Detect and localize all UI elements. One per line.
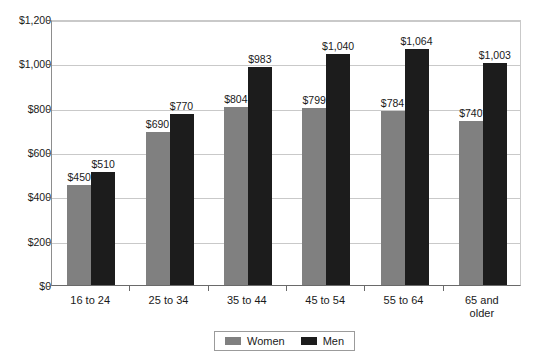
bar-men[interactable]: [326, 54, 350, 285]
bar-men[interactable]: [170, 114, 194, 285]
legend-swatch-icon: [225, 337, 241, 345]
x-axis-tick-mark: [364, 286, 365, 291]
bar-women[interactable]: [459, 121, 483, 285]
bar-women[interactable]: [302, 108, 326, 285]
x-axis-tick-mark: [443, 286, 444, 291]
legend-label: Women: [247, 335, 285, 347]
y-axis-tick-label: $0: [7, 281, 51, 292]
y-axis-tick-label: $1,000: [7, 59, 51, 70]
bar-group: $740$1,003: [459, 21, 507, 285]
bar-group: $690$770: [146, 21, 194, 285]
bar-men[interactable]: [405, 49, 429, 285]
bar-value-label: $770: [155, 101, 209, 112]
bar-value-label: $1,064: [390, 36, 444, 47]
bar-men[interactable]: [91, 172, 115, 285]
gridline: [52, 243, 520, 244]
x-axis-category-label: 65 andolder: [437, 294, 527, 320]
x-axis-tick-mark: [129, 286, 130, 291]
plot-area: $450$510$690$770$804$983$799$1,040$784$1…: [51, 20, 521, 286]
x-axis-category-label: 25 to 34: [124, 294, 214, 307]
gridline: [52, 198, 520, 199]
x-axis-category-label: 55 to 64: [359, 294, 449, 307]
chart-legend: WomenMen: [214, 331, 355, 351]
legend-label: Men: [323, 335, 344, 347]
x-axis-category-label: 45 to 54: [280, 294, 370, 307]
gridline: [52, 154, 520, 155]
legend-item[interactable]: Women: [225, 335, 285, 347]
x-axis-tick-mark: [286, 286, 287, 291]
bar-chart: $0$200$400$600$800$1,000$1,200 $450$510$…: [0, 0, 535, 359]
bar-men[interactable]: [248, 67, 272, 285]
bar-group: $784$1,064: [381, 21, 429, 285]
bar-women[interactable]: [146, 132, 170, 285]
y-axis-tick-label: $600: [7, 148, 51, 159]
x-axis-category-label: 16 to 24: [45, 294, 135, 307]
y-axis-tick-label: $800: [7, 104, 51, 115]
bar-value-label: $1,040: [311, 41, 365, 52]
legend-swatch-icon: [301, 337, 317, 345]
y-axis-tick-label: $1,200: [7, 15, 51, 26]
bar-value-label: $510: [76, 159, 130, 170]
legend-item[interactable]: Men: [301, 335, 344, 347]
bar-group: $804$983: [224, 21, 272, 285]
bar-men[interactable]: [483, 63, 507, 285]
y-axis: $0$200$400$600$800$1,000$1,200: [0, 0, 51, 306]
bar-women[interactable]: [224, 107, 248, 285]
bar-women[interactable]: [381, 111, 405, 285]
y-axis-tick-label: $200: [7, 237, 51, 248]
x-axis-tick-mark: [208, 286, 209, 291]
gridline: [52, 21, 520, 22]
x-axis-category-label: 35 to 44: [202, 294, 292, 307]
y-axis-tick-label: $400: [7, 192, 51, 203]
bar-women[interactable]: [67, 185, 91, 285]
bar-group: $799$1,040: [302, 21, 350, 285]
x-axis: 16 to 2425 to 3435 to 4445 to 5455 to 64…: [51, 286, 521, 331]
bar-value-label: $1,003: [468, 50, 522, 61]
gridline: [52, 65, 520, 66]
bar-value-label: $983: [233, 54, 287, 65]
bar-group: $450$510: [67, 21, 115, 285]
